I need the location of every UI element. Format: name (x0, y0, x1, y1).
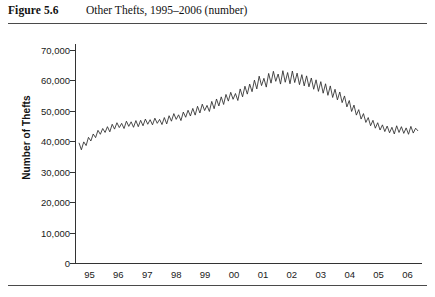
chart-plot-area: Number of Thefts 010,00020,00030,00040,0… (0, 24, 435, 282)
figure-header: Figure 5.6 Other Thefts, 1995–2006 (numb… (8, 4, 427, 22)
figure-divider-bottom (8, 285, 427, 286)
figure-number: Figure 5.6 (8, 4, 86, 16)
line-series-other-thefts (0, 24, 435, 282)
figure-container: Figure 5.6 Other Thefts, 1995–2006 (numb… (0, 0, 435, 297)
figure-caption: Other Thefts, 1995–2006 (number) (86, 4, 247, 16)
